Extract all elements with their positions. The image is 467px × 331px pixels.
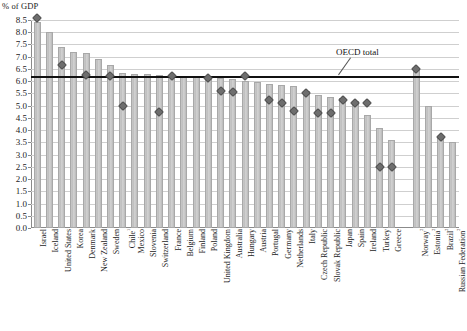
bar (425, 106, 432, 228)
x-axis-label: Korea (77, 229, 85, 249)
x-axis-label: Mexico (138, 229, 146, 253)
bar (193, 76, 200, 228)
y-axis-tick-mark (28, 106, 31, 107)
bar (95, 59, 102, 228)
bar (364, 115, 371, 228)
bar (303, 91, 310, 228)
bar (180, 76, 187, 228)
bar (34, 22, 41, 228)
y-axis-tick-label: 8.5 (16, 16, 27, 25)
x-axis-label: Japan (346, 229, 354, 247)
y-axis-unit-label: % of GDP (2, 1, 38, 11)
y-axis-tick-label: 5.0 (16, 101, 27, 110)
x-axis-label: Denmark (89, 229, 97, 259)
y-axis-tick-label: 0.0 (16, 224, 27, 233)
y-axis-tick-mark (28, 204, 31, 205)
x-axis-label: Slovenia (150, 229, 158, 257)
bar (168, 75, 175, 228)
x-axis-label: Switzerland (162, 229, 170, 267)
bar (144, 74, 151, 228)
y-axis-tick-mark (28, 69, 31, 70)
y-axis-tick-label: 7.0 (16, 52, 27, 61)
y-axis-tick-label: 3.5 (16, 138, 27, 147)
x-axis-labels: IsraelIcelandUnited StatesKoreaDenmarkNe… (31, 229, 459, 331)
x-axis-label: Sweden (113, 229, 121, 254)
bar (205, 78, 212, 228)
x-axis-label: Hungary (248, 229, 256, 257)
y-axis-tick-label: 4.5 (16, 113, 27, 122)
x-axis-label: Austria (260, 229, 268, 253)
y-axis-tick-label: 2.5 (16, 162, 27, 171)
y-axis-tick-label: 1.5 (16, 187, 27, 196)
x-axis-label: Australia (236, 229, 244, 258)
x-axis-label: Czech Republic (321, 229, 329, 280)
y-axis-tick-label: 6.5 (16, 64, 27, 73)
x-axis-label: Chile¹ (126, 229, 137, 248)
bar (156, 75, 163, 228)
bar (449, 142, 456, 228)
gridline (31, 32, 459, 33)
bar (131, 74, 138, 228)
bar (339, 98, 346, 228)
x-axis-label: United States (65, 229, 73, 272)
y-axis-tick-mark (28, 81, 31, 82)
x-axis-label: Estonia² (431, 229, 442, 255)
y-axis-tick-mark (28, 191, 31, 192)
y-axis-tick-mark (28, 179, 31, 180)
x-axis-label: France (175, 229, 183, 251)
x-axis-label: Norway² (419, 229, 430, 257)
plot-area: 0.00.51.01.52.02.53.03.54.04.55.05.56.06… (31, 20, 459, 228)
y-axis-tick-label: 7.5 (16, 40, 27, 49)
y-axis-tick-label: 6.0 (16, 77, 27, 86)
x-axis-label: Italy (309, 229, 317, 244)
x-axis-label: Israel (40, 229, 48, 247)
x-axis-label: United Kingdom (224, 229, 232, 283)
x-axis-label: Spain (358, 229, 366, 247)
gridline (31, 57, 459, 58)
y-axis-tick-mark (28, 32, 31, 33)
x-axis-label: Iceland (52, 229, 60, 253)
bar (254, 82, 261, 228)
y-axis-tick-label: 2.0 (16, 175, 27, 184)
gridline (31, 20, 459, 21)
y-axis-tick-label: 5.5 (16, 89, 27, 98)
y-axis-tick-label: 3.0 (16, 150, 27, 159)
gridline (31, 44, 459, 45)
y-axis-tick-label: 8.0 (16, 28, 27, 37)
y-axis-tick-mark (28, 130, 31, 131)
y-axis-tick-mark (28, 57, 31, 58)
x-axis-label: Belgium (187, 229, 195, 257)
bar (119, 73, 126, 228)
y-axis-tick-label: 0.5 (16, 211, 27, 220)
y-axis-tick-label: 4.0 (16, 126, 27, 135)
x-axis-label: Greece (395, 229, 403, 252)
y-axis-tick-mark (28, 142, 31, 143)
y-axis-tick-mark (28, 155, 31, 156)
x-axis-label: Portugal (272, 229, 280, 256)
bar (217, 78, 224, 228)
y-axis-tick-mark (28, 44, 31, 45)
bar (352, 101, 359, 228)
y-axis-tick-mark (28, 216, 31, 217)
y-axis-tick-label: 1.0 (16, 199, 27, 208)
bar (58, 47, 65, 228)
x-axis-label: Slovak Republic (334, 229, 342, 282)
bar (266, 84, 273, 228)
y-axis-tick-mark (28, 20, 31, 21)
bar (388, 140, 395, 228)
x-axis-label: Poland (211, 229, 219, 251)
reference-line-label: OECD total (336, 47, 379, 57)
y-axis-tick-mark (28, 118, 31, 119)
x-axis-label: Ireland (370, 229, 378, 252)
bar (107, 65, 114, 228)
x-axis-label: Russian Federation² (456, 229, 467, 292)
bar (229, 79, 236, 228)
x-axis-label: Brazil² (444, 229, 455, 250)
bar (46, 32, 53, 228)
x-axis-label: Finland (199, 229, 207, 253)
x-axis-label: Germany (285, 229, 293, 259)
bar (242, 81, 249, 228)
bar (437, 137, 444, 228)
x-axis-label: Netherlands (297, 229, 305, 268)
